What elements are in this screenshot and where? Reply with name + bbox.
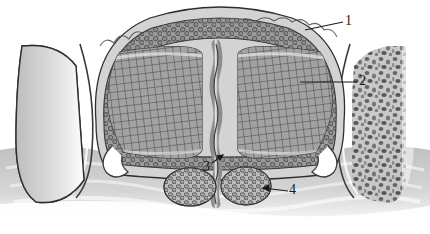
- illustration: [0, 0, 430, 234]
- leader-line-1: [305, 22, 343, 30]
- label-4: 4: [289, 183, 296, 197]
- label-2: 2: [359, 74, 366, 88]
- label-3: 3: [203, 160, 210, 174]
- figure-canvas: 1 2 3 4: [0, 0, 430, 234]
- label-1: 1: [345, 14, 352, 28]
